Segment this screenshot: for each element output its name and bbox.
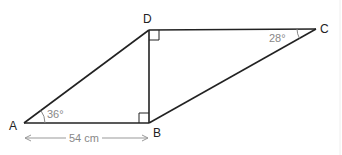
segment-dc — [149, 29, 316, 30]
geometry-diagram: 36° 28° A B C D 54 cm — [0, 0, 342, 155]
angle-arc-a — [41, 110, 45, 123]
angle-label-a: 36° — [47, 108, 64, 120]
vertex-label-b: B — [153, 126, 161, 140]
right-angle-mark-d — [149, 30, 159, 40]
segment-bc — [149, 29, 316, 123]
dimension-label: 54 cm — [69, 132, 99, 144]
angle-label-c: 28° — [269, 32, 286, 44]
vertex-label-d: D — [143, 12, 152, 26]
angle-arc-c — [297, 29, 300, 38]
segment-ad — [24, 30, 149, 123]
vertex-label-a: A — [9, 119, 17, 133]
vertex-label-c: C — [320, 22, 329, 36]
right-angle-mark-b — [139, 113, 149, 123]
